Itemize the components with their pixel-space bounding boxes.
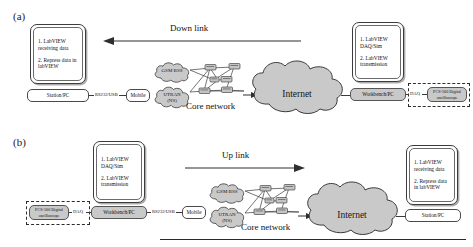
- cloud-gsm-bss-b: GSM BSS: [207, 182, 247, 204]
- connector-label-rs232-b: RS232/USB: [151, 209, 176, 214]
- note-box-right-b: 1. LabVIEW receiving data 2. Repress dat…: [406, 145, 458, 205]
- up-link-arrow: [185, 163, 305, 173]
- cloud-internet-b: Internet: [304, 180, 400, 236]
- panel-b: (b) Up link 1. LabVIEW DAQ/Sim 2. LabVIE…: [0, 123, 473, 246]
- note-line-2: 2. LabVIEW transmission: [101, 175, 137, 188]
- node-oscilloscope-b: PCS-500 Digital oscilloscope: [29, 205, 69, 220]
- note-line-2: 2. Repress data in labVIEW: [414, 178, 450, 191]
- node-station-pc-a: Station/PC: [27, 89, 89, 102]
- up-link-label: Up link: [222, 150, 249, 160]
- cloud-gsm-bss-a: GSM BSS: [152, 61, 192, 83]
- down-link-label: Down link: [170, 23, 208, 33]
- note-line-1: 1. LabVIEW DAQ/Sim: [360, 36, 396, 49]
- connector-label-rs232-a: RS232/USB: [94, 92, 119, 97]
- connector-label-daq-b: DAQ: [72, 209, 84, 214]
- note-box-right-a: 1. LabVIEW DAQ/Sim 2. LabVIEW transmissi…: [352, 22, 404, 82]
- cloud-internet-a: Internet: [249, 59, 345, 115]
- bottom-rule: [160, 239, 466, 240]
- note-line-1: 1. LabVIEW receiving data: [38, 38, 78, 51]
- node-mobile-b: Mobile: [182, 206, 206, 219]
- panel-b-tag: (b): [13, 136, 26, 148]
- node-station-pc-b: Station/PC: [405, 209, 461, 222]
- note-line-2: 2. Repress data in labVIEW: [38, 57, 78, 70]
- core-network-mesh-b: [243, 181, 301, 225]
- core-network-label-a: Core network: [186, 101, 235, 111]
- node-workbench-pc-a: Workbench/PC: [350, 88, 406, 101]
- node-mobile-a: Mobile: [126, 89, 150, 102]
- note-line-1: 1. LabVIEW DAQ/Sim: [101, 156, 137, 169]
- core-network-mesh-a: [188, 60, 246, 104]
- connector-label-daq-a: DAQ: [409, 91, 421, 96]
- note-line-2: 2. LabVIEW transmission: [360, 55, 396, 68]
- core-network-label-b: Core network: [241, 222, 290, 232]
- panel-a: (a) Down link 1. LabVIEW receiving data …: [0, 0, 473, 123]
- node-workbench-pc-b: Workbench/PC: [91, 206, 147, 219]
- panel-a-tag: (a): [13, 10, 25, 22]
- note-line-1: 1. LabVIEW receiving data: [414, 159, 450, 172]
- down-link-arrow: [103, 36, 301, 46]
- note-box-left-b: 1. LabVIEW DAQ/Sim 2. LabVIEW transmissi…: [93, 141, 145, 203]
- node-oscilloscope-a: PCS-500 Digital oscilloscope: [427, 87, 467, 102]
- note-box-left-a: 1. LabVIEW receiving data 2. Repress dat…: [30, 24, 86, 84]
- wire-rs232-mobile: [119, 95, 126, 96]
